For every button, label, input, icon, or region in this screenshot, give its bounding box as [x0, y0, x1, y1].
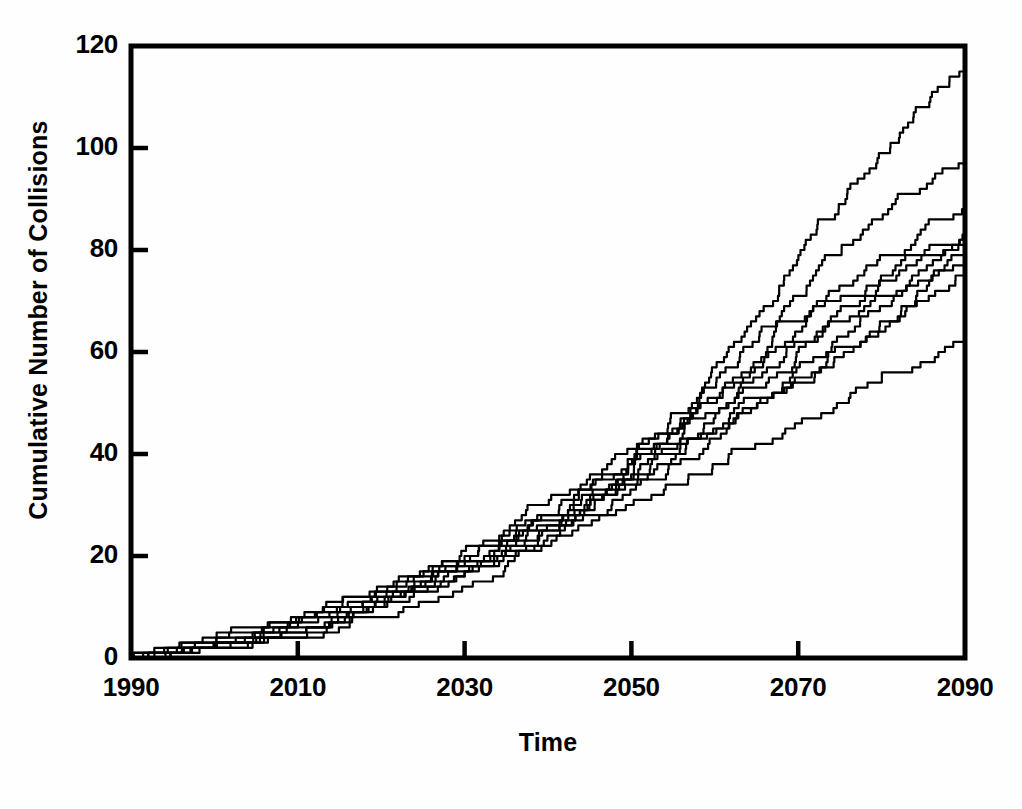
data-line-run-1 — [131, 72, 965, 659]
x-tick-label-2010: 2010 — [228, 672, 368, 703]
y-tick-label-20: 20 — [8, 539, 118, 570]
axis-frame — [131, 46, 965, 658]
x-tick-label-1990: 1990 — [61, 672, 201, 703]
x-tick-label-2050: 2050 — [561, 672, 701, 703]
x-tick-label-2090: 2090 — [895, 672, 1022, 703]
data-line-run-8 — [131, 265, 965, 658]
data-line-run-3 — [131, 209, 965, 658]
data-series-group — [131, 72, 965, 659]
x-tick-label-2070: 2070 — [728, 672, 868, 703]
data-line-run-10 — [131, 337, 965, 658]
data-line-run-7 — [131, 255, 965, 658]
y-tick-label-80: 80 — [8, 233, 118, 264]
data-line-run-5 — [131, 240, 965, 658]
y-tick-label-60: 60 — [8, 335, 118, 366]
y-tick-label-40: 40 — [8, 437, 118, 468]
chart-figure: Cumulative Number of Collisions Time 020… — [0, 0, 1022, 809]
data-line-run-4 — [131, 235, 965, 658]
data-line-run-9 — [131, 270, 965, 658]
x-tick-label-2030: 2030 — [395, 672, 535, 703]
y-tick-label-120: 120 — [8, 29, 118, 60]
y-tick-label-0: 0 — [8, 641, 118, 672]
data-line-run-2 — [131, 163, 965, 658]
y-tick-label-100: 100 — [8, 131, 118, 162]
